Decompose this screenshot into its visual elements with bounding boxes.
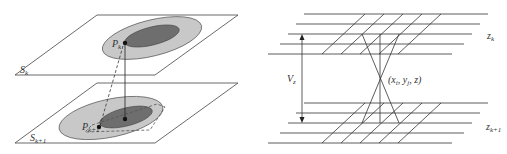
right-figure [268, 14, 488, 143]
label-z-k: zk [486, 30, 495, 43]
left-figure: Pk Sk Pk+1 Sk+1 [15, 8, 238, 147]
label-z-k1: zk+1 [485, 121, 501, 134]
arrow-head-up [300, 34, 305, 40]
diagram-canvas: Pk Sk Pk+1 Sk+1 [0, 0, 507, 154]
arrow-head-down [300, 117, 305, 123]
label-intersection: (xi, yj, z) [388, 74, 422, 87]
label-v-z: Vz [287, 73, 296, 86]
